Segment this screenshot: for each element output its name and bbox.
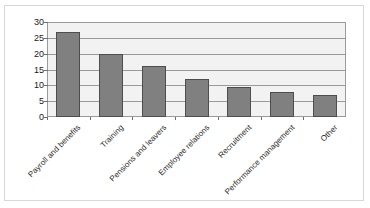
bars-layer: [47, 22, 346, 117]
y-tick-mark: [44, 38, 48, 39]
x-tick-mark: [90, 117, 91, 120]
y-tick-label: 0: [20, 113, 44, 122]
bar: [56, 32, 80, 118]
bar: [99, 54, 123, 117]
x-tick-mark: [303, 117, 304, 120]
x-tick-mark: [261, 117, 262, 120]
y-tick-label: 25: [20, 34, 44, 43]
y-tick-label: 15: [20, 66, 44, 75]
x-tick-mark: [132, 117, 133, 120]
bar: [313, 95, 337, 117]
y-tick-label: 5: [20, 97, 44, 106]
y-tick-mark: [44, 70, 48, 71]
bar: [270, 92, 294, 117]
y-tick-mark: [44, 101, 48, 102]
bar: [227, 87, 251, 117]
y-tick-label: 20: [20, 50, 44, 59]
y-tick-mark: [44, 85, 48, 86]
y-tick-label: 30: [20, 18, 44, 27]
x-tick-label: Other: [318, 123, 339, 144]
x-tick-mark: [218, 117, 219, 120]
x-tick-label: Training: [99, 123, 126, 150]
y-tick-mark: [44, 117, 48, 118]
x-tick-mark: [175, 117, 176, 120]
x-axis: Payroll and benefitsTrainingPensions and…: [47, 117, 346, 205]
x-tick-label: Recruitment: [217, 123, 254, 160]
x-tick-label: Payroll and benefits: [27, 123, 83, 179]
y-tick-label: 10: [20, 81, 44, 90]
bar: [185, 79, 209, 117]
bar-chart-figure: 051015202530 Payroll and benefitsTrainin…: [0, 0, 370, 208]
bar: [142, 66, 166, 117]
y-tick-mark: [44, 22, 48, 23]
y-axis: 051015202530: [20, 22, 44, 117]
y-tick-mark: [44, 54, 48, 55]
x-tick-label: Performance management: [223, 123, 296, 196]
